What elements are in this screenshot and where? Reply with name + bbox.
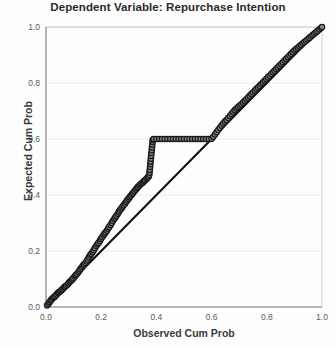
x-tick-label: 0.0: [33, 312, 59, 322]
x-tick-label: 0.4: [143, 312, 169, 322]
y-axis-title: Expected Cum Prob: [22, 76, 34, 226]
pp-plot-figure: Dependent Variable: Repurchase Intention…: [0, 0, 336, 349]
x-tick-label: 0.6: [199, 312, 225, 322]
y-tick-label: 0.2: [18, 246, 40, 256]
data-point: [319, 24, 324, 29]
x-axis-title: Observed Cum Prob: [46, 327, 322, 339]
x-tick-label: 0.8: [254, 312, 280, 322]
x-tick-label: 1.0: [309, 312, 335, 322]
y-tick-label: 1.0: [18, 22, 40, 32]
y-tick-label: 0.0: [18, 302, 40, 312]
plot-canvas: [0, 0, 336, 349]
x-tick-label: 0.2: [88, 312, 114, 322]
